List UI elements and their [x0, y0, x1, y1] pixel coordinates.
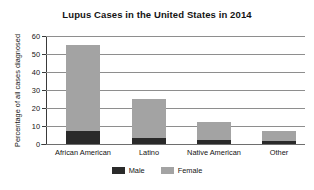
- bar-segment-female[interactable]: [66, 45, 100, 131]
- y-tick-label-0: 0: [36, 140, 40, 149]
- x-axis-line: [41, 144, 305, 145]
- bar-latino[interactable]: [132, 99, 166, 144]
- y-tick-label-40: 40: [32, 68, 40, 77]
- tickmark-20: [42, 108, 46, 109]
- legend-item-female[interactable]: Female: [161, 166, 203, 175]
- plot-area: 60 50 40 30 20 10 0: [46, 36, 305, 144]
- x-tick-label-native-american: Native American: [187, 148, 241, 157]
- bar-segment-female[interactable]: [262, 131, 296, 141]
- bar-segment-male[interactable]: [132, 138, 166, 144]
- tickmark-50: [42, 54, 46, 55]
- gridline-60: [46, 36, 305, 37]
- y-tick-label-10: 10: [32, 122, 40, 131]
- bar-native-american[interactable]: [197, 122, 231, 144]
- chart-legend: Male Female: [0, 166, 314, 175]
- y-tick-label-50: 50: [32, 50, 40, 59]
- tickmark-10: [42, 126, 46, 127]
- bar-segment-male[interactable]: [66, 131, 100, 144]
- chart-figure: Lupus Cases in the United States in 2014…: [0, 0, 314, 190]
- x-tick-label-latino: Latino: [139, 148, 159, 157]
- chart-title: Lupus Cases in the United States in 2014: [0, 9, 314, 20]
- legend-label-female: Female: [178, 166, 203, 175]
- tickmark-40: [42, 72, 46, 73]
- bar-african-american[interactable]: [66, 45, 100, 144]
- legend-swatch-male-icon: [112, 167, 125, 174]
- bar-segment-female[interactable]: [197, 122, 231, 139]
- legend-swatch-female-icon: [161, 167, 174, 174]
- legend-label-male: Male: [129, 166, 145, 175]
- y-tick-label-20: 20: [32, 104, 40, 113]
- legend-item-male[interactable]: Male: [112, 166, 145, 175]
- tickmark-30: [42, 90, 46, 91]
- y-tick-label-60: 60: [32, 32, 40, 41]
- bar-segment-male[interactable]: [262, 141, 296, 144]
- y-axis-label: Percentage of all cases diagnosed: [13, 31, 22, 151]
- bar-other[interactable]: [262, 131, 296, 144]
- bar-segment-female[interactable]: [132, 99, 166, 138]
- tickmark-0: [42, 144, 46, 145]
- x-tick-label-african-american: African American: [55, 148, 111, 157]
- tickmark-60: [42, 36, 46, 37]
- bar-segment-male[interactable]: [197, 140, 231, 145]
- x-tick-label-other: Other: [270, 148, 288, 157]
- y-tick-label-30: 30: [32, 86, 40, 95]
